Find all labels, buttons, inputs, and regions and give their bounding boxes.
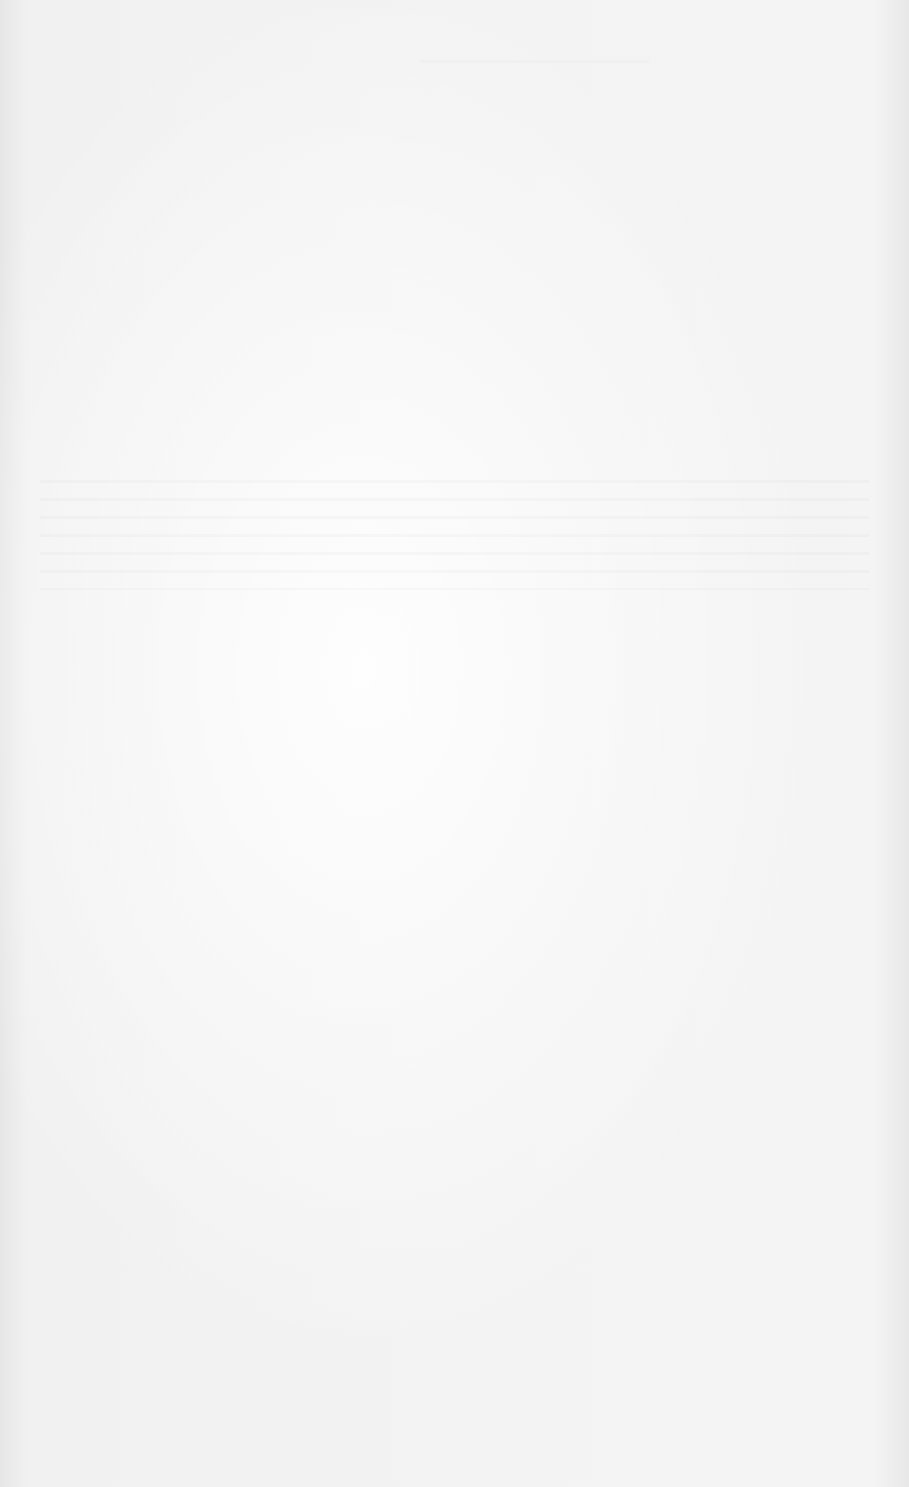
- show-through-header: [420, 60, 649, 70]
- scanned-page: [0, 0, 909, 1487]
- show-through-text-block: [40, 480, 869, 590]
